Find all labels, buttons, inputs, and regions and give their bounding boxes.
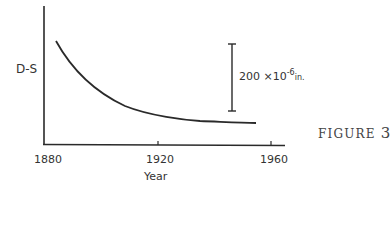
x-tick-label-1920: 1920 — [146, 153, 174, 166]
scale-unit: in. — [295, 73, 305, 82]
scale-exponent: -6 — [287, 68, 295, 77]
scale-bar-label: 200 ×10-6in. — [239, 68, 305, 83]
y-axis-label: D-S — [16, 62, 37, 76]
scale-value: 200 ×10 — [239, 70, 287, 83]
data-curve — [56, 41, 256, 123]
x-axis — [43, 145, 285, 146]
figure-caption: FIGURE 3 — [318, 124, 391, 142]
x-axis-label: Year — [144, 170, 167, 183]
x-tick-label-1880: 1880 — [34, 153, 62, 166]
x-tick-label-1960: 1960 — [260, 153, 288, 166]
figure-number: 3 — [381, 124, 391, 142]
figure-word: FIGURE — [318, 127, 376, 141]
